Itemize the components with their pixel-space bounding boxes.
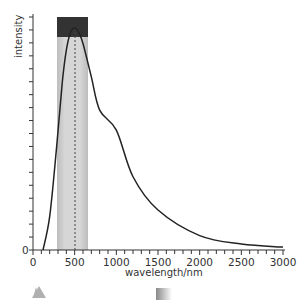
x-tick-label: 2500 xyxy=(228,256,255,268)
triangle-marker-icon xyxy=(32,286,46,298)
gradient-block-marker xyxy=(156,288,172,300)
x-tick-label: 3000 xyxy=(270,256,297,268)
x-axis-label: wavelength/nm xyxy=(125,267,203,278)
y-zero-label: 0 xyxy=(22,244,29,256)
y-axis-ticks xyxy=(29,17,33,250)
y-axis-label: intensity xyxy=(13,15,24,58)
x-axis-ticks xyxy=(33,250,283,255)
spectrum-chart: intensity 0 050010001500200025003000 wav… xyxy=(0,0,305,300)
x-tick-label: 500 xyxy=(65,256,85,268)
visible-band xyxy=(57,17,88,250)
x-tick-label: 0 xyxy=(30,256,37,268)
peak-marker-box xyxy=(57,17,88,37)
